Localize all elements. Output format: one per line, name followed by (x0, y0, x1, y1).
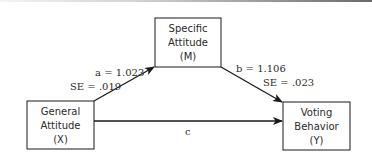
path-b-se: SE = .023 (263, 77, 314, 88)
outcome-label-line2: Behavior (294, 121, 339, 132)
mediation-diagram: Specific Attitude (M) General Attitude (… (0, 0, 372, 161)
mediator-label-line1: Specific (169, 23, 208, 34)
path-c-label: c (185, 126, 191, 137)
outcome-label-line1: Voting (301, 107, 333, 118)
mediator-label-line3: (M) (180, 51, 197, 62)
outcome-node: Voting Behavior (Y) (283, 102, 350, 150)
predictor-label-line3: (X) (53, 134, 68, 145)
path-b-coefficient: b = 1.106 (236, 63, 286, 74)
predictor-label-line1: General (41, 106, 80, 117)
mediator-label-line2: Attitude (168, 37, 208, 48)
predictor-node: General Attitude (X) (27, 101, 94, 149)
mediator-node: Specific Attitude (M) (155, 18, 221, 67)
outcome-label-line3: (Y) (310, 135, 324, 146)
path-a-coefficient: a = 1.023 (95, 67, 144, 78)
predictor-label-line2: Attitude (40, 120, 80, 131)
path-a-se: SE = .019 (70, 81, 121, 92)
